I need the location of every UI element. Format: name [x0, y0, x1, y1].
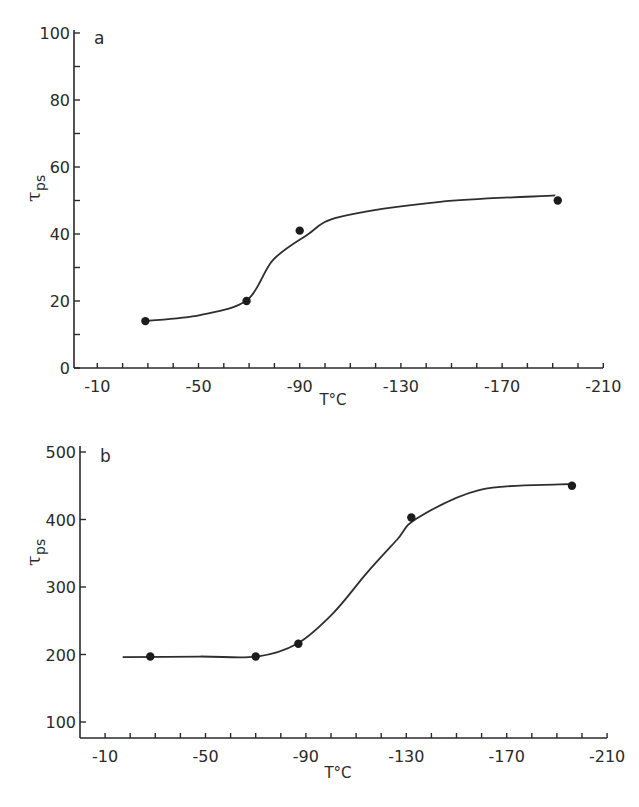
y-tick-label: 0: [60, 359, 70, 378]
y-axis-label-symbol: τ: [22, 555, 44, 566]
y-tick-label: 80: [50, 91, 70, 110]
chart-b: -10-50-90-130-170-210100200300400500bT°C…: [22, 443, 625, 782]
x-tick-label: -10: [84, 377, 110, 396]
data-point: [146, 652, 154, 660]
y-tick-label: 500: [45, 443, 76, 462]
x-tick-label: -90: [287, 377, 313, 396]
data-point: [568, 482, 576, 490]
y-tick-label: 200: [45, 646, 76, 665]
x-tick-label: -130: [383, 377, 419, 396]
panel-label: b: [100, 446, 111, 466]
y-tick-label: 400: [45, 511, 76, 530]
panel-label: a: [94, 28, 104, 48]
x-tick-label: -130: [388, 747, 424, 766]
x-tick-label: -10: [92, 747, 118, 766]
data-point: [141, 317, 149, 325]
x-tick-label: -170: [484, 377, 520, 396]
x-tick-label: -170: [489, 747, 525, 766]
y-axis-label: τps: [22, 175, 48, 202]
y-axis-label-symbol: τ: [22, 191, 44, 202]
y-tick-label: 300: [45, 578, 76, 597]
data-point: [296, 226, 304, 234]
x-tick-label: -50: [185, 377, 211, 396]
data-point: [252, 652, 260, 660]
fit-curve: [123, 484, 572, 657]
chart-a: -10-50-90-130-170-210020406080100aT°Cτps: [22, 24, 621, 409]
x-tick-label: -210: [585, 377, 621, 396]
y-axis-label-subscript: ps: [32, 175, 48, 191]
x-tick-label: -50: [192, 747, 218, 766]
y-tick-label: 20: [50, 292, 70, 311]
x-tick-label: -90: [293, 747, 319, 766]
y-tick-label: 40: [50, 225, 70, 244]
y-tick-label: 60: [50, 158, 70, 177]
data-point: [294, 640, 302, 648]
data-point: [554, 196, 562, 204]
y-axis-label-subscript: ps: [32, 539, 48, 555]
y-tick-label: 100: [39, 24, 70, 43]
data-point: [407, 513, 415, 521]
x-axis-label: T°C: [323, 764, 351, 782]
x-tick-label: -210: [589, 747, 625, 766]
y-tick-label: 100: [45, 713, 76, 732]
x-axis-label: T°C: [318, 391, 346, 409]
y-axis-label: τps: [22, 539, 48, 566]
figure: -10-50-90-130-170-210020406080100aT°Cτps…: [0, 0, 639, 807]
fit-curve: [145, 195, 555, 321]
data-point: [242, 297, 250, 305]
